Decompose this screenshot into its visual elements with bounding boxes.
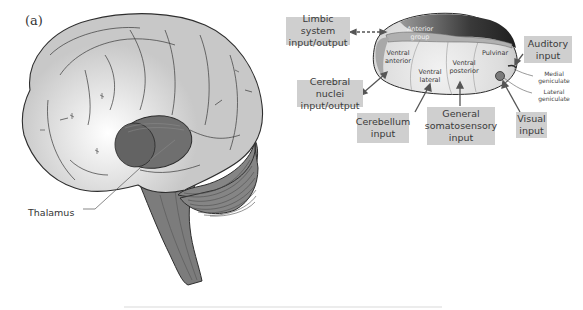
region-ventral-anterior: Ventral anterior xyxy=(380,49,416,65)
label-cerebellum: Cerebellum input xyxy=(357,113,409,143)
bottom-divider xyxy=(124,306,442,308)
region-medial-geniculate: Medial geniculate xyxy=(532,70,576,84)
region-lateral-geniculate: Lateral geniculate xyxy=(532,88,576,102)
label-auditory: Auditory input xyxy=(524,36,572,63)
label-limbic-system: Limbic system input/output xyxy=(286,17,350,45)
label-cerebral-nuclei: Cerebral nuclei input/output xyxy=(297,80,363,107)
label-visual: Visual input xyxy=(516,112,547,138)
region-ventral-posterior: Ventral posterior xyxy=(446,59,482,75)
region-pulvinar: Pulvinar xyxy=(478,49,512,57)
region-ventral-lateral: Ventral lateral xyxy=(415,68,445,84)
label-somatosensory: General somatosensory input xyxy=(427,107,495,145)
thalamus-label: Thalamus xyxy=(28,207,74,218)
region-anterior-group: Anterior group xyxy=(400,25,440,41)
